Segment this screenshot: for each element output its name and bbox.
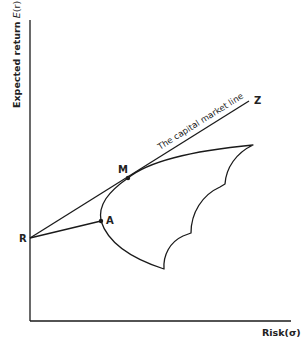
capm-diagram: R A M Z The capital market line Expected…: [0, 0, 306, 347]
label-r: R: [19, 233, 27, 244]
y-axis-label: Expected return E(r): [11, 1, 22, 108]
y-axis-label-prefix: Expected return: [11, 18, 22, 108]
capital-market-line-label: The capital market line: [155, 91, 245, 152]
capital-market-line: [30, 101, 249, 238]
label-m: M: [118, 164, 128, 175]
y-axis-label-suffix: (r): [11, 1, 22, 12]
x-axis-label: Risk(σ): [262, 327, 301, 338]
point-a: [99, 219, 103, 223]
point-m: [126, 176, 130, 180]
label-z: Z: [254, 95, 261, 106]
line-r-to-a: [30, 221, 101, 238]
label-a: A: [106, 215, 114, 226]
